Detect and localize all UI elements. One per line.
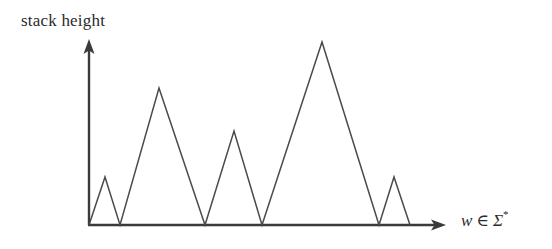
kleene-star-icon: * <box>503 208 509 220</box>
figure-canvas: stack height w∈Σ* <box>0 0 552 249</box>
stack-height-polyline <box>89 42 410 225</box>
element-of-icon: ∈ <box>472 211 493 230</box>
x-axis-label: w∈Σ* <box>461 210 509 229</box>
x-axis-label-alphabet: Σ <box>493 211 503 230</box>
y-axis-label: stack height <box>21 12 105 29</box>
x-axis-label-variable: w <box>461 211 472 230</box>
